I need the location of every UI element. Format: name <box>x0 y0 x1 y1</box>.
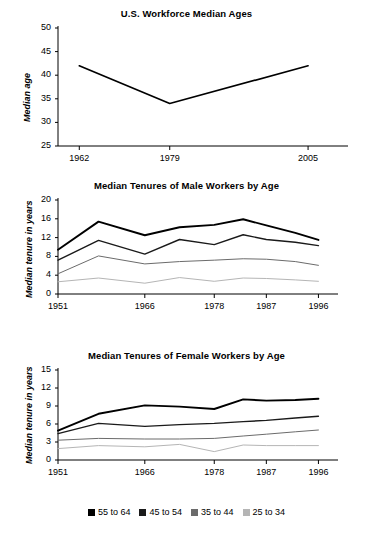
y-tick-label: 50 <box>29 22 51 32</box>
legend-item-35-to-44[interactable]: 35 to 44 <box>191 507 234 517</box>
y-tick-label: 30 <box>29 116 51 126</box>
x-tick-label: 1996 <box>298 301 338 311</box>
legend-swatch-icon <box>191 509 198 516</box>
figure-three-line-charts: U.S. Workforce Median Ages 2530354045501… <box>0 0 373 533</box>
y-axis-title: Median tenure in years <box>24 366 34 464</box>
series-line-35-to-44 <box>58 430 318 440</box>
y-axis-title: Median age <box>22 73 32 122</box>
legend: 55 to 6445 to 5435 to 4425 to 34 <box>0 500 373 524</box>
plot-area-workforce-median-ages: 253035404550196219792005Median age <box>0 0 373 172</box>
chart-panel-male-worker-tenures: Median Tenures of Male Workers by Age 04… <box>0 172 373 342</box>
y-tick-label: 25 <box>29 140 51 150</box>
legend-item-55-to-64[interactable]: 55 to 64 <box>88 507 131 517</box>
series-line-25-to-34 <box>58 444 318 451</box>
series-line-25-to-34 <box>58 278 318 284</box>
series-line-median-age <box>79 66 308 104</box>
line-canvas-male-worker-tenures <box>0 172 373 342</box>
x-tick-label: 1996 <box>298 467 338 477</box>
legend-label: 55 to 64 <box>98 507 131 517</box>
series-line-55-to-64 <box>58 399 318 431</box>
x-tick-label: 1966 <box>125 301 165 311</box>
y-tick-label: 40 <box>29 69 51 79</box>
x-tick-label: 1962 <box>59 153 99 163</box>
x-tick-label: 1951 <box>38 301 78 311</box>
x-tick-label: 1966 <box>125 467 165 477</box>
line-canvas-female-worker-tenures <box>0 342 373 502</box>
x-tick-label: 1979 <box>150 153 190 163</box>
legend-item-45-to-54[interactable]: 45 to 54 <box>139 507 182 517</box>
legend-item-25-to-34[interactable]: 25 to 34 <box>243 507 286 517</box>
legend-items: 55 to 6445 to 5435 to 4425 to 34 <box>0 500 373 524</box>
legend-label: 35 to 44 <box>201 507 234 517</box>
x-tick-label: 1978 <box>194 301 234 311</box>
x-tick-label: 1951 <box>38 467 78 477</box>
legend-swatch-icon <box>88 509 95 516</box>
series-line-45-to-54 <box>58 416 318 433</box>
y-tick-label: 35 <box>29 93 51 103</box>
chart-panel-female-worker-tenures: Median Tenures of Female Workers by Age … <box>0 342 373 502</box>
x-tick-label: 1978 <box>194 467 234 477</box>
chart-panel-workforce-median-ages: U.S. Workforce Median Ages 2530354045501… <box>0 0 373 172</box>
y-axis-title: Median tenure in years <box>24 200 34 298</box>
x-tick-label: 1987 <box>246 301 286 311</box>
series-line-55-to-64 <box>58 219 318 250</box>
plot-area-male-worker-tenures: 04812162019511966197819871996Median tenu… <box>0 172 373 342</box>
legend-label: 45 to 54 <box>149 507 182 517</box>
plot-area-female-worker-tenures: 0369121519511966197819871996Median tenur… <box>0 342 373 502</box>
y-tick-label: 45 <box>29 46 51 56</box>
line-canvas-workforce-median-ages <box>0 0 373 172</box>
series-line-35-to-44 <box>58 256 318 274</box>
x-tick-label: 1987 <box>246 467 286 477</box>
x-tick-label: 2005 <box>288 153 328 163</box>
legend-label: 25 to 34 <box>253 507 286 517</box>
legend-swatch-icon <box>243 509 250 516</box>
legend-swatch-icon <box>139 509 146 516</box>
